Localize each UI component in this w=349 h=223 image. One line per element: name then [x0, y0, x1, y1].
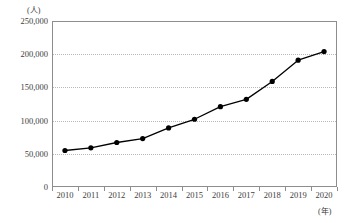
data-point-marker	[270, 79, 275, 84]
data-point-marker	[218, 104, 223, 109]
data-point-marker	[296, 58, 301, 63]
data-series-layer	[0, 0, 349, 223]
data-point-marker	[192, 117, 197, 122]
data-point-marker	[244, 97, 249, 102]
data-point-marker	[321, 49, 326, 54]
line-chart: (人) 050,000100,000150,000200,000250,000 …	[0, 0, 349, 223]
data-point-marker	[140, 136, 145, 141]
data-point-marker	[88, 145, 93, 150]
data-point-marker	[166, 125, 171, 130]
series-line	[65, 52, 324, 151]
data-point-marker	[62, 148, 67, 153]
data-point-marker	[114, 140, 119, 145]
series-markers	[62, 49, 326, 153]
